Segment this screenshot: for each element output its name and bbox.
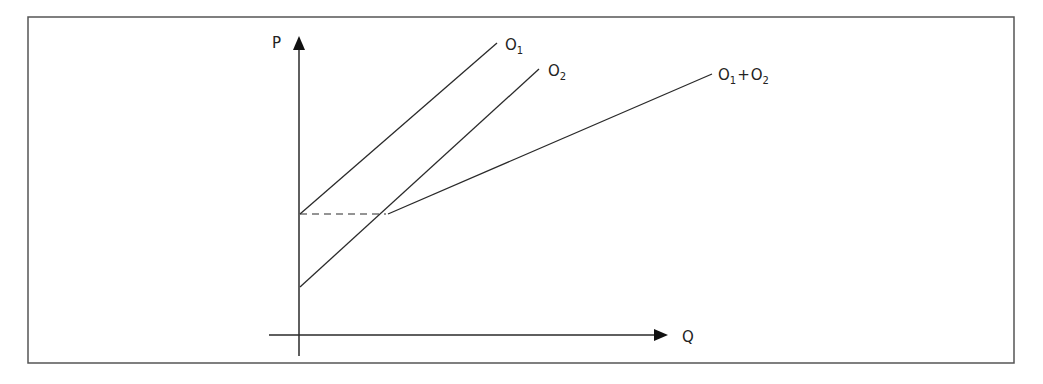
x-axis-arrow-icon	[654, 329, 668, 341]
diagram-frame	[28, 17, 1014, 363]
label-o1: O1O1	[505, 36, 523, 56]
curve-o1	[300, 43, 497, 214]
label-o2: O2	[548, 62, 566, 82]
x-axis-label: Q	[682, 328, 694, 346]
supply-diagram: P Q O1O1 O2 O1+O2	[0, 0, 1043, 384]
label-o1-plus-o2: O1+O2	[718, 66, 769, 86]
y-axis-arrow-icon	[293, 36, 305, 50]
y-axis-label: P	[272, 34, 281, 52]
curve-o2	[300, 69, 539, 287]
